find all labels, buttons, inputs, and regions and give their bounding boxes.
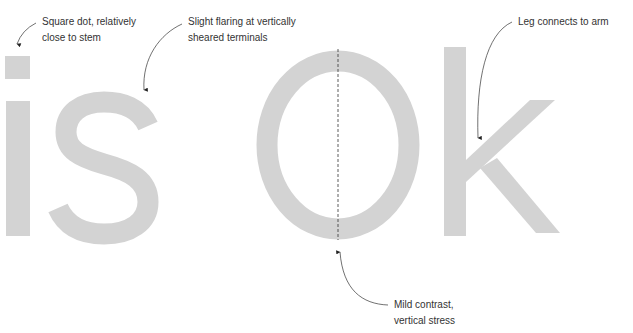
annotation-contrast-stress: Mild contrast, vertical stress bbox=[394, 297, 455, 329]
annotation-line: Mild contrast, bbox=[394, 297, 455, 313]
glyph-k bbox=[444, 47, 560, 236]
annotation-flaring-terminals: Slight flaring at vertically sheared ter… bbox=[188, 14, 296, 46]
k-stem bbox=[444, 47, 466, 236]
k-leg bbox=[480, 158, 560, 233]
annotation-line: Square dot, relatively bbox=[42, 14, 136, 30]
annotation-line: sheared terminals bbox=[188, 30, 296, 46]
arrow-contrast bbox=[340, 252, 388, 305]
annotation-line: Slight flaring at vertically bbox=[188, 14, 296, 30]
annotation-line: Leg connects to arm bbox=[518, 14, 609, 30]
i-stem bbox=[6, 101, 30, 236]
annotation-line: close to stem bbox=[42, 30, 136, 46]
annotation-line: vertical stress bbox=[394, 313, 455, 329]
arrow-flaring bbox=[144, 24, 182, 90]
glyph-i bbox=[5, 56, 30, 236]
specimen-artwork bbox=[0, 0, 633, 333]
annotation-leg-arm: Leg connects to arm bbox=[518, 14, 609, 30]
arrow-square-dot bbox=[17, 23, 36, 44]
i-dot bbox=[5, 56, 30, 79]
k-arm bbox=[466, 100, 555, 182]
glyph-s bbox=[58, 102, 148, 234]
arrow-leg-arm bbox=[478, 22, 512, 138]
annotation-square-dot: Square dot, relatively close to stem bbox=[42, 14, 136, 46]
